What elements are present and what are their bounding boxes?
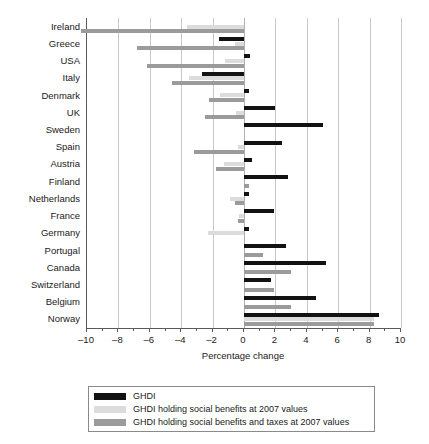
bar-group — [87, 207, 400, 224]
x-tick-mark-minor — [353, 328, 354, 331]
bar — [202, 72, 244, 76]
bar — [244, 141, 282, 145]
bar-series-container — [87, 18, 400, 328]
x-tick-label: 2 — [259, 334, 289, 345]
x-tick-mark-minor — [165, 328, 166, 331]
x-tick-mark — [86, 328, 87, 332]
bar — [220, 93, 244, 97]
bar-group — [87, 190, 400, 207]
bar — [244, 106, 275, 110]
y-tick-label: France — [50, 211, 80, 221]
legend-swatch-ghdi — [94, 393, 126, 400]
y-tick-label: Ireland — [51, 22, 80, 32]
bar — [224, 162, 244, 166]
x-tick-mark — [212, 328, 213, 332]
x-tick-mark — [117, 328, 118, 332]
bar — [172, 81, 244, 85]
y-axis-category-labels: IrelandGreeceUSAItalyDenmarkUKSwedenSpai… — [0, 18, 84, 328]
chart-legend: GHDI GHDI holding social benefits at 200… — [88, 386, 375, 432]
x-tick-label: 4 — [291, 334, 321, 345]
x-tick-mark — [243, 328, 244, 332]
bar-group — [87, 242, 400, 259]
x-tick-label: –2 — [197, 334, 227, 345]
y-tick-label: Sweden — [46, 125, 80, 135]
legend-swatch-ghdi-benefits — [94, 406, 126, 413]
bar — [205, 115, 244, 119]
x-tick-mark — [180, 328, 181, 332]
bar — [244, 313, 379, 317]
x-tick-mark-minor — [196, 328, 197, 331]
bar — [137, 46, 244, 50]
x-tick-label: 8 — [354, 334, 384, 345]
bar — [244, 175, 288, 179]
bar — [225, 59, 244, 63]
bar-group — [87, 259, 400, 276]
legend-entry-ghdi-benefits: GHDI holding social benefits at 2007 val… — [94, 403, 369, 416]
x-tick-mark-minor — [290, 328, 291, 331]
bar — [244, 89, 249, 93]
bar — [235, 201, 244, 205]
x-tick-mark — [306, 328, 307, 332]
bar — [230, 197, 244, 201]
x-tick-mark — [149, 328, 150, 332]
bar — [187, 25, 244, 29]
y-tick-label: Denmark — [41, 91, 80, 101]
y-tick-label: Finland — [49, 177, 80, 187]
chart-plot-region: IrelandGreeceUSAItalyDenmarkUKSwedenSpai… — [0, 18, 429, 378]
bar — [244, 192, 249, 196]
legend-swatch-ghdi-benefits-taxes — [94, 419, 126, 426]
x-tick-label: 0 — [228, 334, 258, 345]
y-tick-label: Portugal — [45, 246, 80, 256]
bar — [244, 305, 291, 309]
x-tick-mark-minor — [384, 328, 385, 331]
x-tick-mark — [274, 328, 275, 332]
bar-group — [87, 70, 400, 87]
x-tick-label: –4 — [165, 334, 195, 345]
bar-group — [87, 173, 400, 190]
legend-label-ghdi: GHDI — [133, 391, 156, 402]
x-tick-mark — [337, 328, 338, 332]
bar — [244, 278, 271, 282]
bar — [244, 261, 326, 265]
bar-group — [87, 311, 400, 328]
bar-group — [87, 87, 400, 104]
bar — [244, 244, 286, 248]
y-tick-label: Norway — [48, 314, 80, 324]
bar — [216, 167, 244, 171]
bar-group — [87, 294, 400, 311]
bar — [239, 214, 244, 218]
x-tick-label: 10 — [385, 334, 415, 345]
y-tick-label: Belgium — [46, 297, 80, 307]
x-tick-label: 6 — [322, 334, 352, 345]
bar — [189, 76, 244, 80]
bar — [236, 111, 244, 115]
x-tick-mark-minor — [133, 328, 134, 331]
x-tick-mark-minor — [259, 328, 260, 331]
y-tick-label: Austria — [50, 159, 80, 169]
bar — [244, 270, 291, 274]
bar — [244, 123, 323, 127]
x-tick-label: –10 — [71, 334, 101, 345]
x-tick-label: –8 — [102, 334, 132, 345]
y-tick-label: UK — [67, 108, 80, 118]
x-tick-mark-minor — [102, 328, 103, 331]
x-tick-mark-minor — [322, 328, 323, 331]
bar — [244, 227, 249, 231]
y-tick-label: Canada — [47, 263, 80, 273]
y-tick-label: USA — [60, 56, 80, 66]
x-axis-title: Percentage change — [86, 350, 400, 361]
bar-group — [87, 139, 400, 156]
y-tick-label: Switzerland — [31, 280, 80, 290]
bar-group — [87, 18, 400, 35]
bar — [244, 253, 263, 257]
x-tick-label: –6 — [134, 334, 164, 345]
bar — [244, 158, 252, 162]
bar-group — [87, 156, 400, 173]
bar — [244, 288, 274, 292]
bar — [238, 219, 244, 223]
bar — [81, 29, 244, 33]
x-tick-mark — [400, 328, 401, 332]
bar — [209, 98, 244, 102]
x-tick-mark-minor — [227, 328, 228, 331]
legend-label-ghdi-benefits-taxes: GHDI holding social benefits and taxes a… — [133, 417, 349, 428]
